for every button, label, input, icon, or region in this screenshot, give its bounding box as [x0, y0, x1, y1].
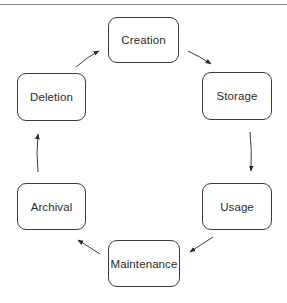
arrow-storage-to-usage	[250, 132, 251, 171]
arrow-archival-to-deletion	[37, 134, 38, 172]
node-archival-label: Archival	[31, 201, 73, 213]
node-creation-label: Creation	[121, 34, 165, 46]
top-divider-line	[0, 4, 287, 5]
node-usage-label: Usage	[220, 201, 254, 213]
arrow-usage-to-maintenance	[190, 237, 213, 252]
node-deletion-label: Deletion	[30, 91, 73, 103]
node-archival: Archival	[17, 183, 86, 230]
node-maintenance: Maintenance	[108, 240, 180, 287]
arrow-creation-to-storage	[188, 51, 211, 64]
arrow-deletion-to-creation	[76, 51, 99, 67]
node-deletion: Deletion	[17, 73, 86, 121]
node-maintenance-label: Maintenance	[111, 258, 178, 270]
node-usage: Usage	[202, 183, 272, 230]
node-creation: Creation	[108, 17, 179, 63]
node-storage: Storage	[202, 72, 272, 120]
arrow-maintenance-to-archival	[78, 240, 100, 254]
node-storage-label: Storage	[217, 90, 258, 102]
